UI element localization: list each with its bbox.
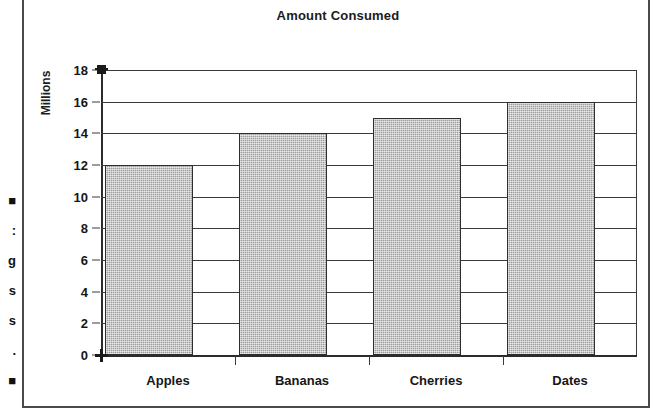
y-tick-mark — [92, 165, 100, 166]
y-tick-mark — [92, 101, 100, 102]
y-tick-label: 8 — [81, 221, 88, 236]
chart-figure-frame: Amount Consumed Millions 024681012141618… — [22, 0, 650, 408]
x-tick-mark — [503, 356, 504, 365]
page-margin-fragments: ■:gss.■ — [0, 186, 16, 396]
x-tick-mark — [235, 356, 236, 365]
y-tick-label: 16 — [74, 94, 88, 109]
x-tick-label: Bananas — [275, 373, 329, 388]
margin-fragment: . — [0, 336, 16, 366]
y-tick-mark — [92, 133, 100, 134]
y-tick-mark — [92, 291, 100, 292]
axis-handle-origin[interactable] — [97, 351, 106, 360]
axis-handle-top[interactable] — [97, 65, 106, 74]
y-tick-label: 10 — [74, 189, 88, 204]
y-tick-label: 4 — [81, 284, 88, 299]
plot-right-edge — [636, 70, 637, 355]
y-axis-line — [101, 68, 103, 357]
margin-fragment: ■ — [0, 186, 16, 216]
bar[interactable] — [507, 102, 595, 355]
y-tick-label: 6 — [81, 253, 88, 268]
x-tick-mark — [369, 356, 370, 365]
y-tick-label: 12 — [74, 158, 88, 173]
bar[interactable] — [373, 118, 461, 356]
bar[interactable] — [239, 133, 327, 355]
margin-fragment: s — [0, 276, 16, 306]
y-tick-mark — [92, 228, 100, 229]
chart-title: Amount Consumed — [24, 8, 652, 23]
bar[interactable] — [105, 165, 193, 355]
x-tick-label: Apples — [146, 373, 189, 388]
margin-fragment: s — [0, 306, 16, 336]
y-tick-mark — [92, 260, 100, 261]
x-tick-label: Dates — [552, 373, 587, 388]
y-tick-label: 14 — [74, 126, 88, 141]
y-axis-title: Millions — [39, 53, 53, 133]
y-tick-mark — [92, 323, 100, 324]
y-tick-label: 18 — [74, 63, 88, 78]
y-tick-mark — [92, 196, 100, 197]
y-tick-label: 0 — [81, 348, 88, 363]
gridline — [101, 70, 637, 71]
y-tick-label: 2 — [81, 316, 88, 331]
plot-area: 024681012141618 ApplesBananasCherriesDat… — [101, 70, 637, 355]
margin-fragment: : — [0, 216, 16, 246]
margin-fragment: g — [0, 246, 16, 276]
margin-fragment: ■ — [0, 366, 16, 396]
x-tick-label: Cherries — [410, 373, 463, 388]
